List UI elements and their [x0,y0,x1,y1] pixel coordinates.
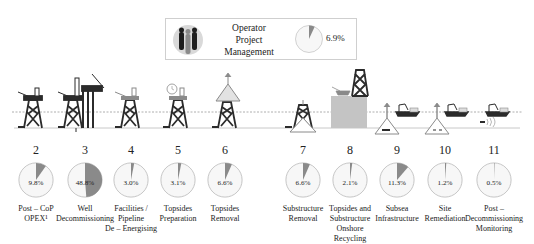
decommissioning-scene [0,60,534,140]
pie-percent-label: 6.6% [296,179,311,187]
pie-percent-label: 48.8% [76,179,94,187]
jacket-platform-icon [18,88,42,128]
stage-description: TopsidesRemoval [195,204,255,224]
stage-pie-chart: 3.1% [159,161,197,199]
stage-description-line: Topsides [195,204,255,214]
stage-description-line: Removal [195,214,255,224]
operator-label: Operator Project Management [210,22,288,58]
stage-description-line: De – Energising [101,224,161,234]
site-remediation-icon [425,103,468,134]
stage-pie-chart: 3.0% [112,161,150,199]
pie-percent-label: 9.8% [29,179,44,187]
stage-pie-chart: 6.6% [206,161,244,199]
stage-pie-chart: 6.6% [284,161,322,199]
operator-label-line: Operator [210,22,288,34]
substructure-lift-icon [285,100,316,132]
pie-percent-label: 3.0% [124,179,139,187]
people-icon [172,24,204,56]
pie-percent-label: 0.5% [487,179,502,187]
stage-6: 66.6%TopsidesRemoval [195,143,255,224]
monitoring-vessel-icon [480,104,509,127]
stage-11: 110.5%Post –DecommissioningMonitoring [459,143,529,234]
pie-percent-label: 1.2% [438,179,453,187]
stage-number: 6 [195,143,255,157]
operator-label-line: Management [210,46,288,58]
stage-pie-chart: 48.8% [66,161,104,199]
pie-percent-label: 2.1% [343,179,358,187]
subsea-vessel-icon [375,103,419,134]
platform-clock-icon [163,84,187,128]
pie-percent-label: 3.1% [171,179,186,187]
onshore-recycling-icon [331,70,368,128]
stage-number: 11 [459,143,529,157]
topsides-lift-icon [212,73,240,128]
pie-percent-label: 6.6% [218,179,233,187]
platform-energising-icon [115,88,139,128]
drilling-rig-icon [58,74,104,132]
stage-description-line: Recycling [320,234,380,244]
stage-description-line: Decommissioning [459,214,529,224]
stage-description-line: Post – [459,204,529,214]
stage-pie-chart: 11.3% [378,161,416,199]
stage-description-line: Onshore [320,224,380,234]
stage-description: Post –DecommissioningMonitoring [459,204,529,234]
stage-description-line: Monitoring [459,224,529,234]
operator-pie [294,24,324,54]
operator-percent: 6.9% [326,33,345,43]
stage-pie-chart: 2.1% [331,161,369,199]
pie-percent-label: 11.3% [388,179,406,187]
operator-label-line: Project [210,34,288,46]
stage-pie-chart: 0.5% [475,161,513,199]
operator-project-management-box: Operator Project Management 6.9% [165,18,357,60]
